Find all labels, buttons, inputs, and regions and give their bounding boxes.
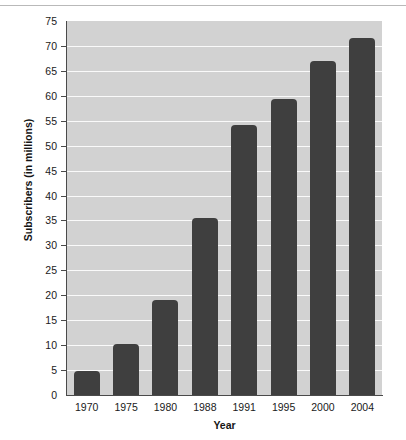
- y-axis-tick-label: 10: [11, 339, 57, 351]
- y-axis-tick-label: 65: [11, 65, 57, 77]
- y-axis-tick-mark: [61, 121, 66, 122]
- x-axis-line: [66, 395, 383, 396]
- bar: [192, 218, 218, 395]
- bar: [231, 125, 257, 395]
- y-axis-tick-label: 5: [11, 364, 57, 376]
- x-axis-title: Year: [67, 419, 382, 431]
- y-axis-tick-mark: [61, 146, 66, 147]
- y-axis-tick-label: 75: [11, 15, 57, 27]
- y-axis-tick-mark: [61, 71, 66, 72]
- y-axis-tick-mark: [61, 196, 66, 197]
- top-divider-rule: [0, 5, 406, 6]
- bar: [271, 99, 297, 395]
- y-axis-tick-label: 30: [11, 239, 57, 251]
- y-axis-tick-label: 15: [11, 314, 57, 326]
- y-axis-tick-label: 50: [11, 140, 57, 152]
- y-axis-tick-mark: [61, 295, 66, 296]
- bar: [310, 61, 336, 395]
- y-axis-tick-mark: [61, 320, 66, 321]
- y-axis-tick-mark: [61, 96, 66, 97]
- y-axis-tick-label: 60: [11, 90, 57, 102]
- plot-area: [67, 21, 382, 395]
- bar: [152, 300, 178, 395]
- y-axis-tick-mark: [61, 171, 66, 172]
- y-axis-tick-label: 35: [11, 214, 57, 226]
- y-axis-line: [66, 21, 67, 396]
- bar: [113, 344, 139, 395]
- gridline: [67, 46, 382, 47]
- bar: [74, 371, 100, 395]
- y-axis-tick-mark: [61, 345, 66, 346]
- y-axis-tick-labels: 051015202530354045505560657075: [9, 0, 57, 440]
- y-axis-tick-mark: [61, 46, 66, 47]
- y-axis-tick-mark: [61, 245, 66, 246]
- bar-chart-figure: Subscribers (in millions) 05101520253035…: [0, 0, 406, 440]
- bar: [349, 38, 375, 395]
- y-axis-tick-label: 40: [11, 190, 57, 202]
- y-axis-tick-mark: [61, 220, 66, 221]
- y-axis-tick-mark: [61, 270, 66, 271]
- x-axis-tick-label: 2004: [332, 401, 392, 413]
- y-axis-tick-label: 25: [11, 264, 57, 276]
- y-axis-tick-label: 70: [11, 40, 57, 52]
- y-axis-tick-label: 55: [11, 115, 57, 127]
- y-axis-tick-mark: [61, 370, 66, 371]
- y-axis-tick-label: 0: [11, 389, 57, 401]
- y-axis-tick-label: 20: [11, 289, 57, 301]
- y-axis-tick-label: 45: [11, 165, 57, 177]
